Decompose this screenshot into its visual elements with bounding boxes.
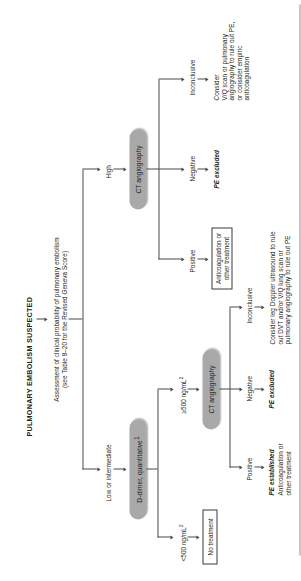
ct-low-inconclusive-action: Consider leg Doppler ultrasound to rule … [269, 231, 292, 344]
ct-high-negative-conclusion: PE excluded [213, 149, 221, 188]
ddimer-split-bar [158, 389, 159, 537]
ct-angiography-node-low[interactable]: CT angiography [203, 349, 220, 429]
ct-low-split-bar [230, 307, 231, 467]
ddimer-negative-drop [158, 536, 172, 537]
pulmonary-embolism-flowchart: PULMONARY EMBOLISM SUSPECTED Assessment … [13, 0, 296, 581]
ct-angiography-label-low: CT angiography [208, 365, 215, 413]
ct-low-positive-arrow [240, 465, 243, 469]
ddimer-stem [147, 468, 158, 469]
no-treatment-label: No treatment [206, 518, 213, 555]
ddimer-positive-drop [158, 388, 172, 389]
low-probability-label: Low or intermediate [105, 444, 113, 501]
high-to-ct-arrow [124, 167, 127, 171]
ct-angiography-node-high[interactable]: CT angiography [130, 129, 147, 209]
rotated-page: PULMONARY EMBOLISM SUSPECTED Assessment … [13, 0, 296, 581]
ct-low-negative-arrow [240, 387, 243, 391]
ct-high-negative-to-text-arrow [206, 167, 209, 171]
ct-low-positive-to-text-arrow [262, 465, 265, 469]
ddimer-negative-to-box-arrow [197, 535, 200, 539]
low-branch-drop [83, 468, 99, 469]
ct-low-negative-conclusion: PE excluded [268, 369, 276, 408]
ct-high-negative-arrow [182, 167, 185, 171]
ct-low-positive-label: Positive [246, 457, 254, 480]
page-title: PULMONARY EMBOLISM SUSPECTED [25, 296, 34, 436]
ct-low-inconclusive-to-text-arrow [262, 305, 265, 309]
ct-high-positive-drop [159, 258, 183, 259]
title-to-subtitle-arrow [45, 317, 48, 321]
ct-high-negative-label: Negative [189, 155, 197, 181]
ct-low-negative-to-text-arrow [262, 387, 265, 391]
ct-high-stem [147, 168, 159, 169]
low-to-ddimer-arrow [124, 467, 127, 471]
ct-high-positive-to-box-arrow [206, 257, 209, 261]
ct-low-negative-label: Negative [246, 375, 254, 401]
assessment-stem [69, 318, 83, 319]
ct-low-positive-action: Anticoagulation or other treatment [277, 443, 292, 495]
ct-high-inconclusive-drop [159, 78, 183, 79]
ddimer-negative-arrow [171, 535, 174, 539]
ct-high-inconclusive-action: Consider V/Q scan or pulmonary angiograp… [213, 21, 251, 100]
d-dimer-node[interactable]: D-dimer, quantitative1 [130, 419, 147, 519]
high-branch-arrow [98, 167, 101, 171]
ct-angiography-label-high: CT angiography [135, 145, 142, 193]
ct-high-inconclusive-arrow [182, 77, 185, 81]
d-dimer-footnote-marker: 1 [133, 436, 140, 440]
high-probability-label: High [105, 165, 113, 178]
ddimer-negative-value: <500 ng/mL2 [178, 524, 188, 561]
high-branch-drop [83, 168, 99, 169]
ct-high-positive-arrow [182, 257, 185, 261]
probability-split-bar [83, 169, 84, 469]
page-subtitle: Assessment of clinical probability of pu… [53, 219, 68, 419]
ct-high-inconclusive-to-text-arrow [206, 77, 209, 81]
ct-low-inconclusive-arrow [240, 305, 243, 309]
ddimer-positive-to-ct-arrow [197, 387, 200, 391]
ct-high-negative-drop [159, 168, 183, 169]
ddimer-positive-arrow [171, 387, 174, 391]
ct-low-inconclusive-label: Inconclusive [246, 287, 254, 323]
high-anticoagulation-box[interactable]: Anticoagulation or other treatment [212, 227, 233, 289]
no-treatment-box[interactable]: No treatment [203, 509, 218, 564]
low-branch-arrow [98, 467, 101, 471]
high-anticoagulation-label: Anticoagulation or other treatment [215, 232, 230, 283]
ct-high-inconclusive-label: Inconclusive [189, 59, 197, 95]
ct-low-positive-conclusion: PE established [268, 449, 276, 495]
ddimer-positive-value: ≥500 ng/mL2 [178, 376, 188, 413]
ct-low-stem [220, 388, 230, 389]
d-dimer-label: D-dimer, quantitative1 [133, 436, 143, 502]
ct-high-positive-label: Positive [189, 249, 197, 272]
